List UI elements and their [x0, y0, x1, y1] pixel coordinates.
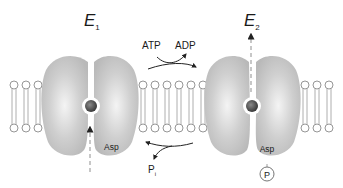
e2-title: E2 [244, 11, 260, 32]
e1-right-lobe [94, 56, 139, 156]
reaction-arrows [146, 54, 196, 159]
e1-asp-label: Asp [104, 142, 119, 152]
e1-ion-icon [85, 100, 97, 112]
e1-title: E1 [84, 11, 100, 32]
pi-label: Pi [148, 164, 156, 177]
phosphate-label: P [264, 170, 270, 180]
pump-cycle-diagram: E1 E2 ATP ADP Pi Asp Asp P [0, 0, 343, 188]
forward-arrow [148, 63, 196, 69]
e1-left-lobe [41, 56, 88, 156]
e1-protein [41, 56, 138, 172]
e2-right-lobe [256, 56, 301, 156]
atp-label: ATP [142, 40, 161, 51]
e2-asp-label: Asp [260, 144, 275, 154]
reverse-arrow [146, 142, 193, 146]
e2-protein [204, 34, 300, 181]
e2-ion-icon [246, 100, 258, 112]
pi-release-arrow [154, 146, 172, 159]
adp-label: ADP [175, 40, 196, 51]
atp-to-adp-arrow [157, 54, 186, 63]
